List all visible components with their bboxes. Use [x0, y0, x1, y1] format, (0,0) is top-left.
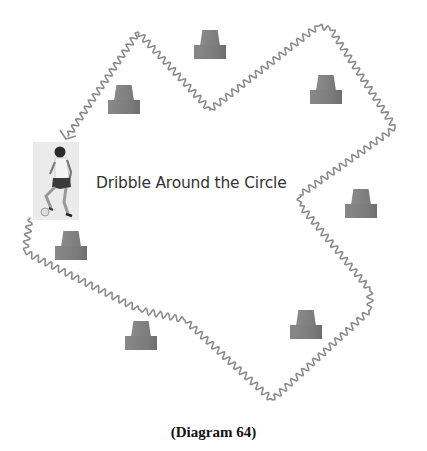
drill-diagram: Dribble Around the Circle (Diagram 64)	[0, 0, 427, 451]
cone-upper-right-icon	[310, 75, 342, 104]
soccer-player-dribbling-icon	[33, 142, 79, 220]
cone-lower-left-icon	[125, 321, 157, 350]
cone-lower-right-icon	[290, 310, 322, 339]
drill-title-label: Dribble Around the Circle	[96, 174, 286, 192]
cone-right-icon	[345, 189, 377, 218]
cone-top-center-icon	[194, 30, 226, 59]
cone-upper-left-icon	[108, 85, 140, 114]
diagram-caption: (Diagram 64)	[0, 424, 427, 441]
cone-left-icon	[55, 231, 87, 260]
wavy-dribble-path	[0, 0, 427, 451]
